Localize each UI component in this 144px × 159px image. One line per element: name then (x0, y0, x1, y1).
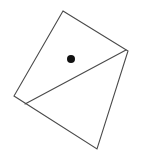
geometry-figure (0, 0, 144, 159)
figure-background (0, 0, 144, 159)
marked-point-dot (67, 55, 75, 63)
